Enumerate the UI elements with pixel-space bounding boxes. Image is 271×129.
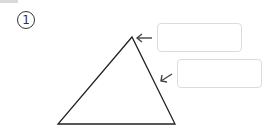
vertex-arrow-icon [137,34,152,42]
side-arrow-icon [161,74,172,82]
vertex-answer-box[interactable] [157,23,242,52]
side-answer-box[interactable] [177,59,262,88]
